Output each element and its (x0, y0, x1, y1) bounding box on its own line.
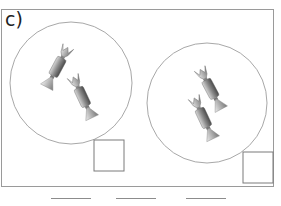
candy-icon (41, 43, 75, 90)
group-2-circle (147, 43, 267, 163)
group-1-answer-box[interactable] (94, 140, 124, 171)
candy-icon (66, 73, 98, 121)
answer-blank-3[interactable] (186, 198, 226, 199)
candy-icon (187, 94, 219, 142)
answer-blank-2[interactable] (116, 198, 156, 199)
group-2-answer-box[interactable] (243, 152, 273, 183)
answer-blank-1[interactable] (51, 198, 91, 199)
exercise-illustration (0, 0, 281, 206)
